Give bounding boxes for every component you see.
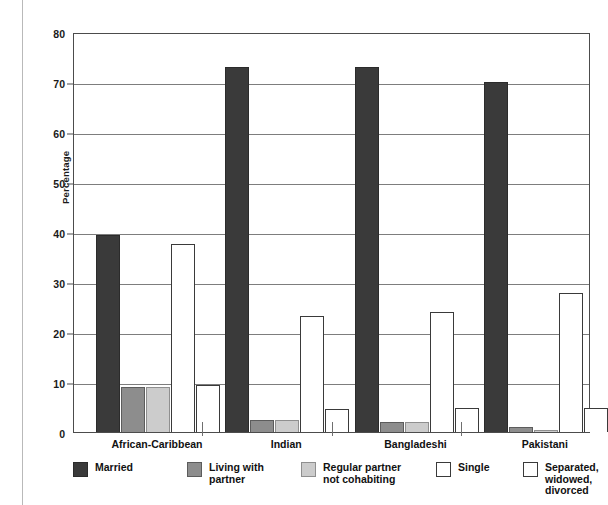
y-tick-mark [67, 384, 74, 385]
x-axis-separator-tick [332, 422, 333, 436]
gridline [74, 384, 589, 385]
y-tick-label: 0 [59, 428, 65, 440]
y-tick-mark [67, 234, 74, 235]
bar [509, 427, 533, 432]
bar [250, 420, 274, 433]
legend-label: Married [95, 461, 133, 474]
bar [171, 244, 195, 432]
y-tick-mark [67, 84, 74, 85]
y-tick-label: 70 [53, 78, 65, 90]
y-tick-label: 30 [53, 278, 65, 290]
legend-swatch-icon [187, 462, 202, 477]
legend-item[interactable]: Married [73, 461, 133, 477]
gridline [74, 334, 589, 335]
bar [455, 408, 479, 432]
bar [300, 316, 324, 432]
gridline [74, 284, 589, 285]
bar [121, 387, 145, 432]
plot-area: Percentage 01020304050607080 [73, 33, 590, 433]
bar [275, 420, 299, 433]
legend-swatch-icon [436, 462, 451, 477]
legend-swatch-icon [73, 462, 88, 477]
bar [196, 385, 220, 433]
bar [559, 293, 583, 432]
y-tick-label: 20 [53, 328, 65, 340]
x-axis-separator-tick [461, 422, 462, 436]
legend-label: Separated, widowed, divorced [545, 461, 603, 497]
y-tick-label: 10 [53, 378, 65, 390]
gridline [74, 84, 589, 85]
legend-item[interactable]: Living with partner [187, 461, 264, 485]
x-axis-group-label: Indian [271, 438, 302, 450]
bar [96, 235, 120, 432]
y-tick-label: 80 [53, 28, 65, 40]
bar-chart-figure: Percentage 01020304050607080 African-Car… [0, 0, 608, 505]
bar [225, 67, 249, 432]
bar [146, 387, 170, 432]
y-tick-mark [67, 334, 74, 335]
y-tick-label: 40 [53, 228, 65, 240]
gridline [74, 134, 589, 135]
y-tick-label: 60 [53, 128, 65, 140]
x-axis-group-label: Pakistani [522, 438, 568, 450]
bar [355, 67, 379, 432]
legend-label: Regular partner not cohabiting [323, 461, 401, 485]
y-tick-mark [67, 134, 74, 135]
legend-item[interactable]: Single [436, 461, 490, 477]
x-axis-group-label: Bangladeshi [384, 438, 446, 450]
bar [405, 422, 429, 432]
y-tick-mark [67, 184, 74, 185]
y-tick-mark [67, 284, 74, 285]
bar [325, 409, 349, 432]
legend-label: Single [458, 461, 490, 474]
bar [430, 312, 454, 432]
bar [534, 430, 558, 433]
bar [380, 422, 404, 432]
gridline [74, 184, 589, 185]
chart-legend: MarriedLiving with partnerRegular partne… [73, 461, 603, 495]
bar [584, 408, 608, 432]
x-axis-group-label: African-Caribbean [111, 438, 202, 450]
bar [484, 82, 508, 432]
legend-swatch-icon [301, 462, 316, 477]
legend-item[interactable]: Separated, widowed, divorced [523, 461, 603, 497]
legend-label: Living with partner [209, 461, 264, 485]
legend-swatch-icon [523, 462, 538, 477]
gridline [74, 234, 589, 235]
y-tick-label: 50 [53, 178, 65, 190]
legend-item[interactable]: Regular partner not cohabiting [301, 461, 401, 485]
x-axis-separator-tick [202, 422, 203, 436]
